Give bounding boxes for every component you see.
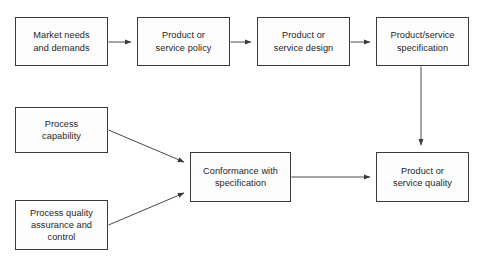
flowchart-diagram: Market needs and demands Product or serv… — [0, 0, 483, 267]
node-label: Process capability — [39, 118, 84, 142]
node-label: Product or service policy — [153, 29, 215, 53]
node-product-design[interactable]: Product or service design — [257, 17, 350, 66]
node-label: Process quality assurance and control — [27, 207, 96, 244]
node-market-needs[interactable]: Market needs and demands — [15, 17, 108, 66]
node-label: Product or service quality — [390, 165, 455, 189]
node-product-policy[interactable]: Product or service policy — [137, 17, 230, 66]
node-label: Product/service specification — [387, 29, 457, 53]
node-product-specification[interactable]: Product/service specification — [376, 17, 469, 66]
edge-process-capability-to-conformance-with-specification — [109, 130, 185, 162]
node-conformance-with-specification[interactable]: Conformance with specification — [190, 152, 291, 202]
node-product-service-quality[interactable]: Product or service quality — [376, 152, 469, 202]
node-process-quality-assurance[interactable]: Process quality assurance and control — [15, 200, 108, 250]
edge-process-quality-assurance-to-conformance-with-specification — [109, 193, 185, 225]
node-label: Product or service design — [271, 29, 336, 53]
node-label: Conformance with specification — [200, 165, 281, 189]
node-label: Market needs and demands — [30, 29, 92, 53]
node-process-capability[interactable]: Process capability — [15, 107, 108, 153]
